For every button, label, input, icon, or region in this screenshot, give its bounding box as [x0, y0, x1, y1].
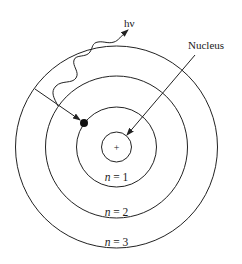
nucleus-pointer-arrow: [127, 55, 195, 135]
electron-dot: [80, 119, 88, 127]
orbit-label-n2-value: = 2: [110, 206, 128, 218]
photon-wave-arrow: [53, 30, 128, 106]
orbit-label-n3-value: = 3: [110, 236, 128, 248]
nucleus-label: Nucleus: [188, 39, 224, 51]
bohr-atom-diagram: + hν Nucleus n = 1 n = 2 n = 3: [0, 0, 242, 264]
orbit-label-n1-value: = 1: [110, 171, 128, 183]
orbit-label-n2: n = 2: [105, 206, 129, 218]
nucleus-plus-sign: +: [114, 142, 120, 153]
orbit-label-n3: n = 3: [105, 236, 129, 248]
photon-label-h-nu: hν: [124, 17, 135, 29]
orbit-label-n1: n = 1: [105, 171, 129, 183]
